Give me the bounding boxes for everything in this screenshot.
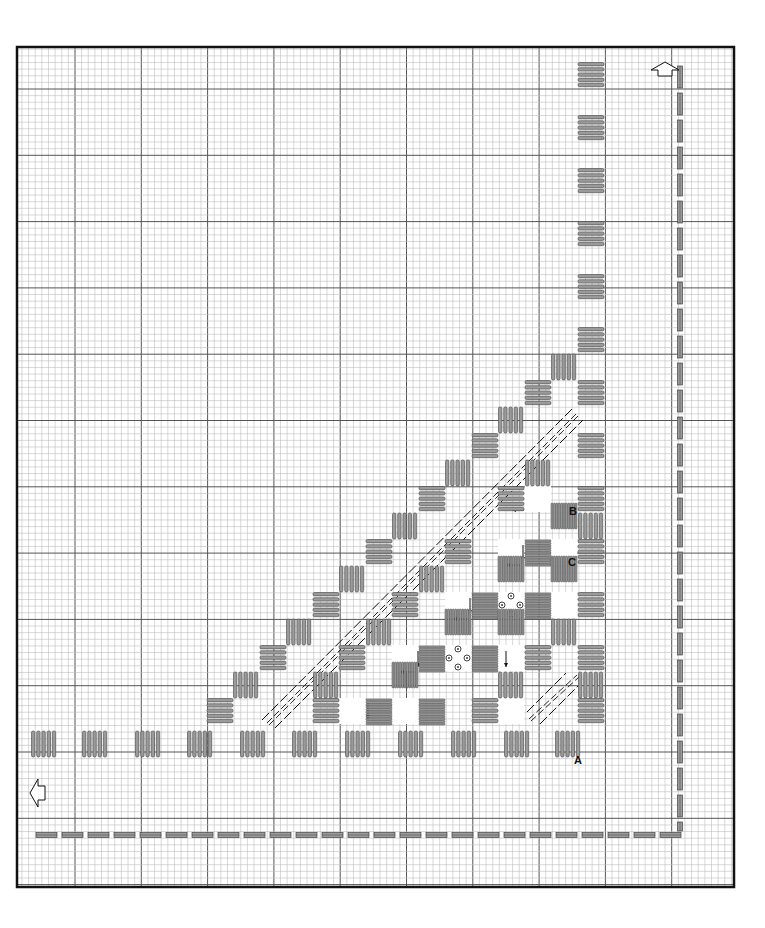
- wrap-stitch: [525, 610, 551, 612]
- satin-stitch: [578, 121, 604, 124]
- kloster-block: [293, 731, 317, 757]
- satin-stitch: [578, 73, 604, 76]
- wrap-stitch: [419, 718, 445, 720]
- satin-stitch: [526, 460, 529, 486]
- satin-stitch: [136, 731, 139, 757]
- wrap-stitch: [472, 598, 498, 600]
- wrap-stitch: [472, 612, 498, 614]
- satin-stitch: [313, 603, 339, 606]
- satin-stitch: [419, 502, 445, 505]
- wrap-stitch: [419, 713, 445, 715]
- satin-stitch: [302, 619, 305, 645]
- satin-stitch: [599, 513, 602, 539]
- wrap-stitch: [366, 721, 392, 723]
- kloster-block: [578, 116, 604, 140]
- satin-stitch: [566, 731, 569, 757]
- wrap-stitch: [472, 658, 498, 660]
- satin-stitch: [579, 513, 582, 539]
- satin-stitch: [472, 434, 498, 437]
- wrap-stitch: [500, 556, 502, 582]
- satin-stitch: [207, 704, 233, 707]
- grid: [17, 47, 734, 887]
- wrap-stitch: [464, 609, 466, 635]
- satin-stitch: [52, 731, 55, 757]
- wrap-stitch: [419, 706, 445, 708]
- wrap-stitch: [419, 653, 445, 655]
- wrap-stitch: [565, 503, 567, 529]
- satin-stitch: [552, 619, 555, 645]
- wrap-stitch: [469, 609, 471, 635]
- satin-stitch: [260, 666, 286, 669]
- wrap-stitch: [510, 556, 512, 582]
- satin-stitch: [525, 666, 551, 669]
- satin-stitch: [345, 566, 348, 592]
- satin-stitch: [578, 661, 604, 664]
- kloster-block: [445, 540, 471, 564]
- satin-stitch: [578, 497, 604, 500]
- satin-stitch: [578, 333, 604, 336]
- satin-stitch: [366, 560, 392, 563]
- satin-stitch: [42, 731, 45, 757]
- satin-stitch: [313, 699, 339, 702]
- satin-stitch: [498, 507, 524, 510]
- kloster-block: [313, 593, 339, 617]
- satin-stitch: [339, 656, 365, 659]
- satin-stitch: [156, 731, 159, 757]
- wrap-stitch: [414, 662, 416, 688]
- wrap-stitch: [515, 556, 517, 582]
- satin-stitch: [346, 731, 349, 757]
- wrap-stitch: [525, 542, 551, 544]
- satin-stitch: [578, 63, 604, 66]
- kloster-block: [446, 460, 470, 486]
- satin-stitch: [261, 731, 264, 757]
- satin-stitch: [557, 354, 560, 380]
- satin-stitch: [578, 656, 604, 659]
- kloster-block: [339, 646, 365, 670]
- wrap-stitch: [472, 615, 498, 617]
- satin-stitch: [366, 555, 392, 558]
- label-b: B: [569, 505, 577, 517]
- wrap-stitch: [399, 662, 401, 688]
- satin-stitch: [308, 731, 311, 757]
- eyelet-center: [457, 648, 459, 650]
- wrap-stitch: [522, 609, 524, 635]
- satin-stitch: [307, 619, 310, 645]
- satin-stitch: [578, 719, 604, 722]
- satin-stitch: [578, 555, 604, 558]
- kloster-block: [83, 731, 107, 757]
- satin-stitch: [456, 460, 459, 486]
- wrap-stitch: [553, 503, 555, 529]
- satin-stitch: [350, 566, 353, 592]
- satin-stitch: [578, 396, 604, 399]
- wrap-stitch: [563, 556, 565, 582]
- wrap-stitch: [525, 557, 551, 559]
- wrap-stitch: [392, 662, 394, 688]
- wrap-stitch: [419, 648, 445, 650]
- satin-stitch: [578, 449, 604, 452]
- satin-stitch: [319, 672, 322, 698]
- satin-stitch: [578, 507, 604, 510]
- satin-stitch: [445, 550, 471, 553]
- satin-stitch: [504, 672, 507, 698]
- satin-stitch: [472, 731, 475, 757]
- wrap-stitch: [525, 598, 551, 600]
- kloster-block: [578, 169, 604, 193]
- satin-stitch: [425, 566, 428, 592]
- wrap-stitch: [563, 503, 565, 529]
- satin-stitch: [445, 555, 471, 558]
- satin-stitch: [578, 116, 604, 119]
- satin-stitch: [472, 454, 498, 457]
- wrap-stitch: [419, 670, 445, 672]
- wrap-stitch: [525, 540, 551, 542]
- wrap-stitch: [525, 559, 551, 561]
- satin-stitch: [578, 401, 604, 404]
- kloster-block: [188, 731, 212, 757]
- satin-stitch: [578, 290, 604, 293]
- wrap-stitch: [472, 660, 498, 662]
- wrap-stitch: [419, 709, 445, 711]
- wrap-stitch: [561, 503, 563, 529]
- satin-stitch: [366, 540, 392, 543]
- satin-stitch: [578, 444, 604, 447]
- satin-stitch: [234, 672, 237, 698]
- satin-stitch: [244, 672, 247, 698]
